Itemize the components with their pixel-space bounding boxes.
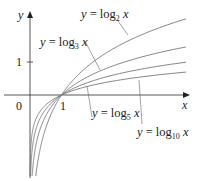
y-axis-arrow-icon: [27, 11, 33, 18]
label-log2: y = log2 x: [79, 7, 129, 23]
label-log3: y = log3 x: [38, 35, 88, 51]
leader-log2: [118, 21, 128, 35]
y-axis-label: y: [17, 8, 24, 22]
x-tick-1-label: 1: [60, 99, 66, 113]
label-log5: y = log5 x: [90, 106, 140, 122]
y-tick-1-label: 1: [16, 55, 22, 69]
label-log10: y = log10 x: [135, 125, 189, 141]
log-curves-chart: y x 0 1 1 y = log2 x y = log3 x y = log5…: [0, 0, 201, 181]
x-axis-label: x: [181, 98, 188, 112]
origin-label: 0: [16, 99, 22, 113]
